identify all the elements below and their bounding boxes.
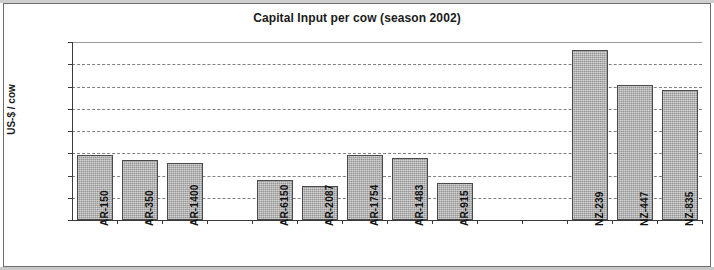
y-tick-mark	[68, 153, 73, 154]
x-tick-mark	[477, 220, 478, 224]
x-tick-mark	[162, 220, 163, 224]
x-tick-mark	[252, 220, 253, 224]
x-tick-mark	[342, 220, 343, 224]
y-tick-mark	[68, 220, 73, 221]
chart-screenshot: Capital Input per cow (season 2002) US-$…	[0, 0, 714, 270]
x-tick-mark	[432, 220, 433, 224]
x-category-label: NZ-239	[594, 191, 605, 226]
x-tick-mark	[297, 220, 298, 224]
x-category-label: AR-1400	[189, 185, 200, 226]
x-tick-mark	[207, 220, 208, 224]
x-tick-mark	[702, 220, 703, 224]
x-tick-mark	[117, 220, 118, 224]
x-category-label: AR-1483	[414, 185, 425, 226]
x-tick-mark	[657, 220, 658, 224]
gridline	[72, 153, 702, 154]
x-tick-mark	[567, 220, 568, 224]
x-category-label: AR-2087	[324, 185, 335, 226]
y-tick-mark	[68, 198, 73, 199]
x-category-label: NZ-835	[684, 191, 695, 226]
y-tick-mark	[68, 87, 73, 88]
y-tick-mark	[68, 42, 73, 43]
gridline	[72, 109, 702, 110]
x-tick-mark	[612, 220, 613, 224]
x-category-label: AR-350	[144, 190, 155, 226]
gridline	[72, 131, 702, 132]
y-axis-label: US-$ / cow	[6, 75, 17, 145]
gridline	[72, 87, 702, 88]
y-tick-mark	[68, 131, 73, 132]
x-category-label: AR-915	[459, 190, 470, 226]
x-category-label: AR-6150	[279, 185, 290, 226]
y-tick-mark	[68, 64, 73, 65]
x-category-label: AR-1754	[369, 185, 380, 226]
y-tick-mark	[68, 109, 73, 110]
gridline	[72, 42, 702, 43]
x-category-label: NZ-447	[639, 191, 650, 226]
gridline	[72, 64, 702, 65]
x-category-label: AR-150	[99, 190, 110, 226]
x-tick-mark	[522, 220, 523, 224]
chart-title: Capital Input per cow (season 2002)	[0, 11, 714, 25]
plot-area: 02004006008001,0001,2001,4001,600	[72, 42, 702, 220]
y-tick-mark	[68, 176, 73, 177]
x-tick-mark	[387, 220, 388, 224]
